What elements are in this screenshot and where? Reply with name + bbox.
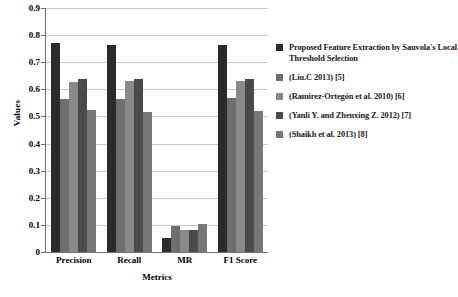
chart-legend: Proposed Feature Extraction by Sauvola's… [276, 42, 458, 148]
legend-item: (Shaikh et al. 2013) [8] [276, 129, 458, 140]
bar-set [102, 8, 158, 252]
bar [78, 79, 87, 252]
legend-label: Proposed Feature Extraction by Sauvola's… [289, 42, 458, 64]
y-tickmark [41, 89, 45, 90]
bar [69, 82, 78, 252]
y-tickmark [41, 116, 45, 117]
legend-label: (Ramírez-Ortegón et al. 2010) [6] [289, 91, 404, 102]
y-tickmark [41, 198, 45, 199]
legend-item: (Liu.C 2013) [5] [276, 72, 458, 83]
legend-swatch-icon [276, 131, 283, 138]
x-axis-tick-labels: PrecisionRecallMRF1 Score [46, 255, 268, 265]
plot-region: Values 00.10.20.30.40.50.60.70.80.9 Prec… [0, 0, 276, 297]
bar [198, 224, 207, 252]
y-tickmark [41, 144, 45, 145]
bar [60, 99, 69, 252]
y-tick-label: 0.4 [14, 139, 40, 148]
bar [245, 79, 254, 253]
x-axis-title: Metrics [46, 272, 268, 282]
bar-group [46, 8, 102, 252]
x-tick-label: F1 Score [213, 255, 269, 265]
y-tick-label: 0.6 [14, 85, 40, 94]
bar [107, 45, 116, 252]
bar-chart-figure: Values 00.10.20.30.40.50.60.70.80.9 Prec… [0, 0, 458, 297]
y-tick-label: 0.9 [14, 4, 40, 13]
legend-swatch-icon [276, 93, 283, 100]
y-tick-label: 0.8 [14, 31, 40, 40]
bar-group [157, 8, 213, 252]
bar-group [213, 8, 269, 252]
y-tickmark [41, 225, 45, 226]
bar-set [46, 8, 102, 252]
bar [189, 230, 198, 252]
y-tickmark [41, 171, 45, 172]
y-tickmark [41, 62, 45, 63]
y-tickmark [41, 35, 45, 36]
legend-label: (Yanli Y. and Zhenxing Z. 2012) [7] [289, 110, 411, 121]
x-tick-label: Recall [102, 255, 158, 265]
bar [125, 81, 134, 252]
bar-groups [46, 8, 268, 252]
y-tickmark [41, 8, 45, 9]
legend-swatch-icon [276, 44, 283, 51]
legend-label: (Shaikh et al. 2013) [8] [289, 129, 367, 140]
bar [227, 98, 236, 252]
y-tick-label: 0.5 [14, 112, 40, 121]
legend-item: Proposed Feature Extraction by Sauvola's… [276, 42, 458, 64]
x-tick-label: MR [157, 255, 213, 265]
y-tick-label: 0.2 [14, 193, 40, 202]
legend-swatch-icon [276, 74, 283, 81]
legend-swatch-icon [276, 112, 283, 119]
bar [51, 43, 60, 252]
bar [236, 81, 245, 252]
bar-group [102, 8, 158, 252]
x-tick-label: Precision [46, 255, 102, 265]
y-tick-label: 0.1 [14, 220, 40, 229]
y-tick-label: 0 [14, 248, 40, 257]
bar [116, 99, 125, 252]
bar-set [157, 8, 213, 252]
legend-item: (Yanli Y. and Zhenxing Z. 2012) [7] [276, 110, 458, 121]
bar [171, 226, 180, 252]
bar [87, 110, 96, 252]
bar [180, 230, 189, 252]
bar [143, 112, 152, 252]
bar [254, 111, 263, 252]
bar [218, 45, 227, 252]
legend-item: (Ramírez-Ortegón et al. 2010) [6] [276, 91, 458, 102]
legend-label: (Liu.C 2013) [5] [289, 72, 344, 83]
bar [162, 238, 171, 252]
bar-set [213, 8, 269, 252]
x-axis-line [45, 252, 268, 253]
y-tick-label: 0.3 [14, 166, 40, 175]
y-axis-tick-labels: 00.10.20.30.40.50.60.70.80.9 [14, 8, 40, 252]
y-tick-label: 0.7 [14, 58, 40, 67]
bar [134, 79, 143, 252]
